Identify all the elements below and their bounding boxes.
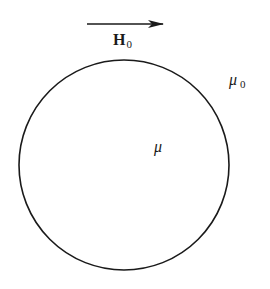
sphere-boundary — [19, 60, 229, 270]
outer-mu-subscript: 0 — [240, 78, 246, 90]
field-subscript: 0 — [126, 38, 132, 50]
inner-permeability-label: μ — [154, 139, 162, 155]
inner-mu-symbol: μ — [154, 138, 162, 155]
applied-field-label: H0 — [113, 32, 132, 50]
diagram-canvas: H0 μ0 μ — [0, 0, 270, 289]
outer-mu-symbol: μ — [229, 71, 237, 88]
field-symbol: H — [113, 31, 125, 48]
outer-permeability-label: μ0 — [229, 72, 246, 88]
diagram-svg — [0, 0, 270, 289]
